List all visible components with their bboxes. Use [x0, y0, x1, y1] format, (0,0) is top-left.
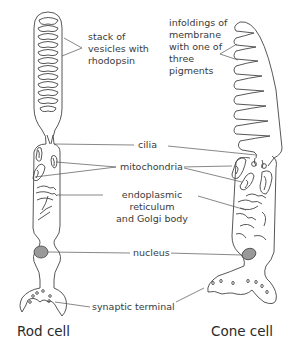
label-synaptic-terminal: synaptic terminal [91, 301, 176, 313]
label-cone-outer-segment: infoldings of membrane with one of three… [168, 17, 228, 77]
title-rod-cell: Rod cell [17, 323, 70, 339]
rod-synaptic-vesicles [29, 290, 52, 304]
label-cilia: cilia [137, 139, 158, 151]
title-cone-cell: Cone cell [211, 323, 273, 339]
cone-infoldings [234, 22, 270, 158]
cone-er-golgi [236, 194, 266, 240]
rod-vesicle-stack [38, 18, 58, 112]
rod-er-golgi [36, 186, 57, 220]
label-nucleus: nucleus [132, 247, 171, 259]
cone-synaptic-vesicles [212, 279, 268, 293]
rod-nucleus [34, 246, 48, 258]
label-er-golgi: endoplasmic reticulum and Golgi body [103, 189, 201, 225]
label-rod-outer-segment: stack of vesicles with rhodopsin [87, 31, 150, 67]
label-mitochondria: mitochondria [119, 161, 184, 173]
rod-cell-drawing [20, 12, 67, 316]
cone-nucleus [241, 246, 258, 261]
